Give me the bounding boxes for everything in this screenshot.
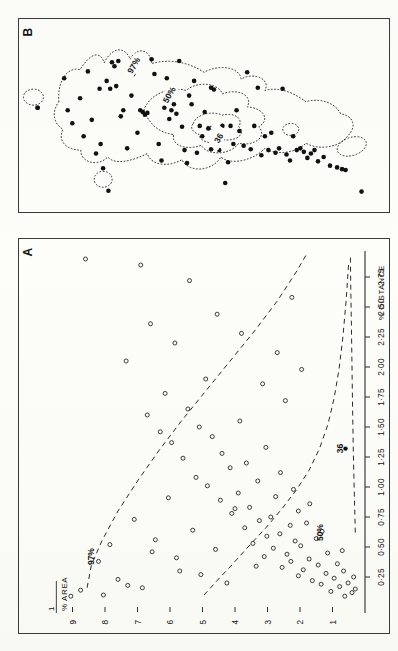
contour-island-right <box>337 137 366 156</box>
svg-text:2·25: 2·25 <box>377 328 386 346</box>
svg-text:4: 4 <box>231 619 240 624</box>
panel-b-contour-label: 50% <box>159 83 180 108</box>
svg-text:2·00: 2·00 <box>377 358 386 376</box>
svg-text:5: 5 <box>199 619 208 624</box>
svg-text:0·50: 0·50 <box>377 538 386 556</box>
panel-a-annotated-point <box>343 446 347 450</box>
panel-b-label: B <box>21 27 35 36</box>
svg-text:0·75: 0·75 <box>377 508 386 526</box>
panel-b-points <box>35 57 364 194</box>
svg-text:3: 3 <box>264 619 273 624</box>
svg-text:×: × <box>207 123 212 133</box>
curve-36 <box>350 257 355 533</box>
svg-text:1·25: 1·25 <box>377 448 386 466</box>
svg-text:7: 7 <box>134 619 143 624</box>
curve-97 <box>87 255 306 587</box>
svg-text:2: 2 <box>296 619 305 624</box>
contour-island-left <box>23 89 43 105</box>
svg-text:6: 6 <box>166 619 175 624</box>
svg-text:0·25: 0·25 <box>377 568 386 586</box>
svg-text:9: 9 <box>69 619 78 624</box>
svg-text:1·00: 1·00 <box>377 478 386 496</box>
panel-a-plot: 0·250·500·751·001·251·501·752·002·252·50… <box>19 239 391 635</box>
svg-text:1: 1 <box>47 606 56 611</box>
contour-97 <box>54 50 353 169</box>
contour-island-mid <box>283 123 299 135</box>
svg-text:97%: 97% <box>86 548 96 565</box>
svg-text:1·75: 1·75 <box>377 388 386 406</box>
panel-a-curve-label: 97% <box>86 548 96 565</box>
svg-text:% AREA: % AREA <box>60 577 69 611</box>
panel-a: 0·250·500·751·001·251·501·752·002·252·50… <box>18 238 390 634</box>
panel-a-points <box>69 257 357 598</box>
contour-50 <box>144 84 265 153</box>
panel-a-label: A <box>21 247 35 256</box>
svg-text:50%: 50% <box>315 524 325 541</box>
svg-text:8: 8 <box>101 619 110 624</box>
panel-b: 97%50%36× B <box>18 18 390 213</box>
panel-a-curve-label: 50% <box>315 524 325 541</box>
panel-b-contour-label: 97% <box>123 53 144 78</box>
svg-text:1: 1 <box>329 619 338 624</box>
svg-text:% DISTANCE: % DISTANCE <box>377 265 386 320</box>
contour-island-bottom <box>94 171 112 187</box>
panel-b-plot: 97%50%36× <box>19 19 391 214</box>
panel-b-cross-marker: × <box>207 123 212 133</box>
curve-50 <box>204 261 349 595</box>
svg-text:1·50: 1·50 <box>377 418 386 436</box>
